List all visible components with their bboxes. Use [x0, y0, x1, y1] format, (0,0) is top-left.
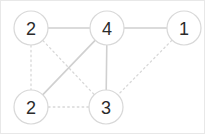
node-layer: 24123	[14, 11, 201, 124]
graph-node-label: 3	[101, 98, 111, 118]
graph-node[interactable]: 2	[14, 11, 48, 45]
graph-node-label: 4	[102, 19, 112, 39]
graph-node-label: 2	[26, 98, 36, 118]
graph-node[interactable]: 4	[90, 11, 124, 45]
graph-canvas: 24123	[1, 1, 205, 134]
graph-edge	[106, 45, 107, 89]
graph-node-label: 2	[26, 19, 36, 39]
graph-node[interactable]: 3	[89, 90, 123, 124]
graph-node[interactable]: 1	[167, 11, 201, 45]
graph-node-label: 1	[179, 19, 189, 39]
graph-edge	[118, 40, 171, 94]
graph-figure: 24123	[0, 0, 205, 134]
graph-node[interactable]: 2	[14, 90, 48, 124]
